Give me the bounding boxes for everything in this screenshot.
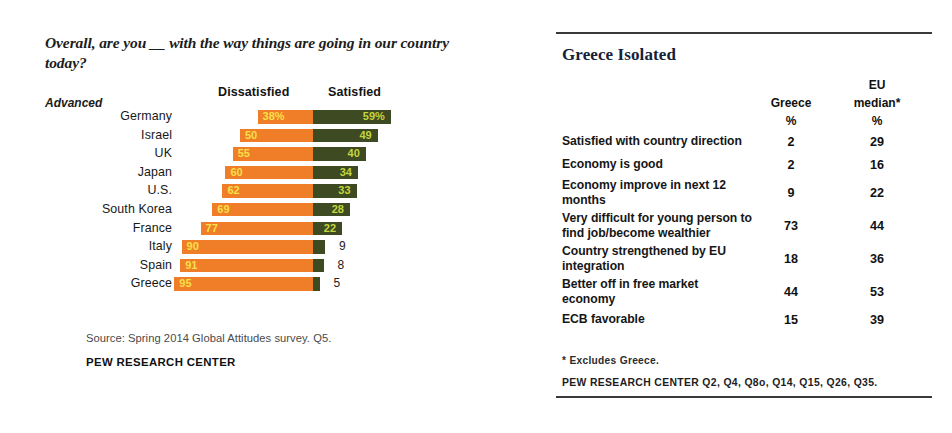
bar-segment-dissatisfied: 91 bbox=[180, 259, 313, 273]
table-cell-eu-median: 22 bbox=[838, 186, 916, 200]
table-cell-eu-median: 39 bbox=[838, 313, 916, 327]
table-cell-eu-median: 16 bbox=[838, 158, 916, 172]
left-chart-panel: Overall, are you __ with the way things … bbox=[0, 0, 520, 433]
bar-value-label-outside: 8 bbox=[338, 259, 345, 273]
bar-row: Israel4950 bbox=[0, 127, 520, 146]
bottom-divider-rule bbox=[556, 396, 932, 398]
source-note: Source: Spring 2014 Global Attitudes sur… bbox=[86, 332, 331, 344]
bar-segment-dissatisfied: 55 bbox=[233, 147, 313, 161]
table-cell-greece: 2 bbox=[752, 135, 830, 149]
table-row-label: Satisfied with country direction bbox=[562, 134, 752, 149]
chart-question-title: Overall, are you __ with the way things … bbox=[45, 33, 465, 73]
bar-segment-dissatisfied: 62 bbox=[222, 184, 313, 198]
header-percent-greece: % bbox=[752, 114, 830, 128]
table-cell-greece: 2 bbox=[752, 158, 830, 172]
bar-chart-rows: Germany59%38%Israel4950UK4055Japan3460U.… bbox=[0, 108, 520, 294]
bar-segment-dissatisfied: 60 bbox=[225, 166, 313, 180]
table-cell-eu-median: 36 bbox=[838, 252, 916, 266]
header-eu-line1: EU bbox=[838, 78, 916, 92]
header-percent-eu: % bbox=[838, 114, 916, 128]
legend-satisfied: Satisfied bbox=[328, 85, 381, 99]
table-cell-greece: 73 bbox=[752, 219, 830, 233]
bar-segment-satisfied: 22 bbox=[313, 222, 342, 236]
bar-segment-satisfied: 34 bbox=[313, 166, 358, 180]
bar-segment-satisfied: 49 bbox=[313, 129, 378, 143]
table-row-label: Better off in free market economy bbox=[562, 277, 752, 306]
bar-segment-dissatisfied: 50 bbox=[240, 129, 313, 143]
country-label: France bbox=[0, 221, 172, 235]
bar-value-label-outside: 9 bbox=[339, 240, 346, 254]
header-greece: Greece bbox=[752, 96, 830, 110]
country-label: South Korea bbox=[0, 202, 172, 216]
bar-row: Italy909 bbox=[0, 238, 520, 257]
table-cell-greece: 15 bbox=[752, 313, 830, 327]
table-footnote: * Excludes Greece. bbox=[562, 355, 659, 366]
table-row: Country strengthened by EU integration18… bbox=[556, 242, 932, 275]
table-column-headers: EU Greece median* % % bbox=[556, 78, 932, 126]
bar-segment-satisfied: 59% bbox=[313, 110, 391, 124]
table-row-label: Country strengthened by EU integration bbox=[562, 244, 752, 273]
table-cell-greece: 9 bbox=[752, 186, 830, 200]
table-row: Satisfied with country direction229 bbox=[556, 130, 932, 153]
bar-segment-satisfied bbox=[313, 240, 325, 254]
header-eu-median: median* bbox=[838, 96, 916, 110]
table-body: Satisfied with country direction229Econo… bbox=[556, 130, 932, 331]
table-row: Better off in free market economy4453 bbox=[556, 275, 932, 308]
bar-segment-dissatisfied: 69 bbox=[212, 203, 313, 217]
country-label: Israel bbox=[0, 128, 172, 142]
bar-row: U.S.3362 bbox=[0, 182, 520, 201]
table-row-label: ECB favorable bbox=[562, 312, 752, 327]
right-table-panel: Greece Isolated EU Greece median* % % Sa… bbox=[556, 0, 936, 433]
country-label: Greece bbox=[0, 276, 172, 290]
country-label: UK bbox=[0, 146, 172, 160]
table-row: Very difficult for young person to find … bbox=[556, 209, 932, 242]
table-cell-eu-median: 29 bbox=[838, 135, 916, 149]
table-cell-eu-median: 44 bbox=[838, 219, 916, 233]
table-row-label: Very difficult for young person to find … bbox=[562, 211, 752, 240]
bar-segment-satisfied: 33 bbox=[313, 184, 357, 198]
infographic-page: Overall, are you __ with the way things … bbox=[0, 0, 952, 433]
table-row: ECB favorable1539 bbox=[556, 308, 932, 331]
bar-segment-dissatisfied: 95 bbox=[174, 277, 313, 291]
bar-row: UK4055 bbox=[0, 145, 520, 164]
bar-row: Germany59%38% bbox=[0, 108, 520, 127]
table-cell-greece: 44 bbox=[752, 285, 830, 299]
bar-segment-satisfied: 40 bbox=[313, 147, 366, 161]
bar-row: Spain918 bbox=[0, 257, 520, 276]
pew-research-center-label-right: PEW RESEARCH CENTER Q2, Q4, Q8o, Q14, Q1… bbox=[562, 377, 878, 388]
bar-row: Greece955 bbox=[0, 275, 520, 294]
country-label: Germany bbox=[0, 109, 172, 123]
bar-value-label-outside: 5 bbox=[334, 277, 341, 291]
bar-segment-satisfied bbox=[313, 259, 324, 273]
bar-segment-dissatisfied: 77 bbox=[201, 222, 313, 236]
bar-row: South Korea2869 bbox=[0, 201, 520, 220]
top-divider-rule bbox=[556, 32, 932, 34]
bar-row: Japan3460 bbox=[0, 164, 520, 183]
table-cell-eu-median: 53 bbox=[838, 285, 916, 299]
table-row: Economy improve in next 12 months922 bbox=[556, 176, 932, 209]
table-row-label: Economy improve in next 12 months bbox=[562, 178, 752, 207]
country-label: Japan bbox=[0, 165, 172, 179]
table-row: Economy is good216 bbox=[556, 153, 932, 176]
table-cell-greece: 18 bbox=[752, 252, 830, 266]
panel-title: Greece Isolated bbox=[562, 45, 676, 65]
legend-dissatisfied: Dissatisfied bbox=[218, 85, 289, 99]
bar-segment-dissatisfied: 90 bbox=[182, 240, 313, 254]
country-label: Spain bbox=[0, 258, 172, 272]
table-row-label: Economy is good bbox=[562, 157, 752, 172]
country-label: Italy bbox=[0, 239, 172, 253]
pew-research-center-label-left: PEW RESEARCH CENTER bbox=[86, 356, 236, 368]
bar-segment-dissatisfied: 38% bbox=[258, 110, 313, 124]
bar-segment-satisfied: 28 bbox=[313, 203, 350, 217]
bar-segment-satisfied bbox=[313, 277, 320, 291]
country-label: U.S. bbox=[0, 183, 172, 197]
bar-row: France2277 bbox=[0, 220, 520, 239]
